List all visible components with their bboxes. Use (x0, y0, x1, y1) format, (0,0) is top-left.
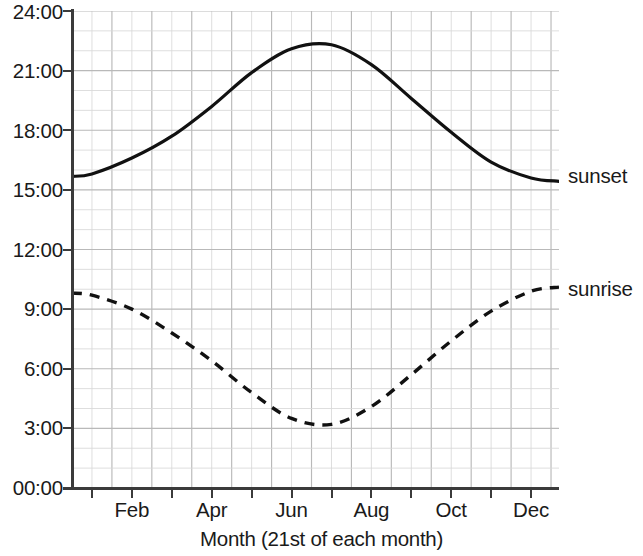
y-axis-tick (63, 487, 72, 489)
sunrise-series-label: sunrise (568, 277, 633, 301)
y-axis-tick (63, 249, 72, 251)
x-axis-tick (530, 489, 532, 498)
x-axis-label-jun: Jun (252, 498, 332, 522)
x-axis-tick (370, 489, 372, 498)
sunset-line (72, 44, 559, 182)
y-axis-label-18: 18:00 (0, 119, 63, 143)
x-axis-tick (490, 489, 492, 498)
sunset-series-label: sunset (568, 164, 627, 188)
y-axis-label-0: 00:00 (0, 476, 63, 500)
y-axis-label-21: 21:00 (0, 59, 63, 83)
x-axis-label-oct: Oct (411, 498, 491, 522)
y-axis-tick (63, 368, 72, 370)
x-axis-tick (450, 489, 452, 498)
y-axis-tick (63, 129, 72, 131)
y-axis-label-6: 6:00 (0, 357, 63, 381)
x-axis-title: Month (21st of each month) (0, 527, 643, 551)
x-axis-line (63, 487, 559, 490)
x-axis-tick (410, 489, 412, 498)
y-axis-tick (63, 427, 72, 429)
x-axis-label-dec: Dec (491, 498, 571, 522)
x-axis-tick (91, 489, 93, 498)
plot-area (72, 11, 559, 488)
x-axis-tick (131, 489, 133, 498)
y-axis-tick (63, 10, 72, 12)
y-axis-label-24: 24:00 (0, 0, 63, 24)
y-axis-label-9: 9:00 (0, 297, 63, 321)
x-axis-tick (211, 489, 213, 498)
x-axis-label-aug: Aug (331, 498, 411, 522)
x-axis-label-feb: Feb (92, 498, 172, 522)
y-axis-label-3: 3:00 (0, 416, 63, 440)
data-series-layer (72, 11, 559, 488)
sunrise-sunset-line-chart: 24:00 21:00 18:00 15:00 12:00 9:00 6:00 … (0, 0, 643, 556)
y-axis-tick (63, 70, 72, 72)
y-axis-label-12: 12:00 (0, 238, 63, 262)
sunrise-line (72, 287, 559, 425)
y-axis-tick (63, 308, 72, 310)
x-axis-tick (251, 489, 253, 498)
y-axis-label-15: 15:00 (0, 178, 63, 202)
x-axis-tick (331, 489, 333, 498)
y-axis-tick (63, 189, 72, 191)
x-axis-tick (291, 489, 293, 498)
x-axis-label-apr: Apr (172, 498, 252, 522)
x-axis-tick (171, 489, 173, 498)
